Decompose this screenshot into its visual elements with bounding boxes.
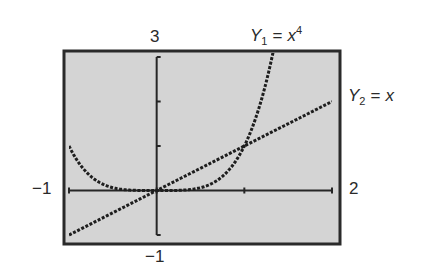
graph-canvas <box>0 0 425 266</box>
xmin-label: −1 <box>32 180 51 197</box>
ymin-label: −1 <box>145 248 164 265</box>
y1-base: x <box>287 26 296 45</box>
y1-equals: = <box>267 26 287 45</box>
y1-name: Y <box>250 26 261 45</box>
y2-equals: = <box>365 86 385 105</box>
y1-exponent: 4 <box>296 24 302 36</box>
y2-name: Y <box>348 86 359 105</box>
y1-equation-label: Y1=x4 <box>250 25 302 47</box>
y2-rhs: x <box>385 86 394 105</box>
xmax-label: 2 <box>349 180 358 197</box>
y2-equation-label: Y2=x <box>348 87 394 107</box>
ymax-label: 3 <box>150 28 159 45</box>
